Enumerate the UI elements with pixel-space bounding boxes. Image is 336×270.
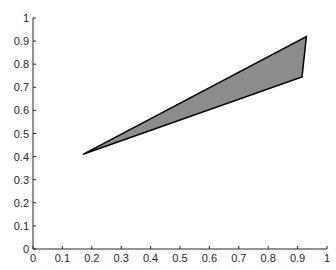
y-tick-label: 1	[23, 12, 29, 24]
x-tick-label: 1	[324, 252, 330, 264]
y-tick-label: 0	[23, 243, 29, 255]
y-axis: 00.10.20.30.40.50.60.70.80.91	[14, 12, 36, 255]
x-tick-label: 0.8	[261, 252, 276, 264]
y-tick-label: 0.2	[14, 197, 29, 209]
x-tick-label: 0.5	[172, 252, 187, 264]
chart: 00.10.20.30.40.50.60.70.80.91 00.10.20.3…	[0, 0, 336, 270]
y-tick-label: 0.9	[14, 35, 29, 47]
x-tick-label: 0.3	[114, 252, 129, 264]
x-tick-label: 0.1	[55, 252, 70, 264]
x-axis: 00.10.20.30.40.50.60.70.80.91	[30, 246, 330, 264]
x-tick-label: 0.4	[143, 252, 158, 264]
y-tick-label: 0.4	[14, 151, 29, 163]
x-tick-label: 0.6	[202, 252, 217, 264]
x-tick-label: 0	[30, 252, 36, 264]
y-tick-label: 0.8	[14, 58, 29, 70]
y-tick-label: 0.3	[14, 174, 29, 186]
x-tick-label: 0.2	[84, 252, 99, 264]
y-tick-label: 0.5	[14, 128, 29, 140]
y-tick-label: 0.6	[14, 104, 29, 116]
y-tick-label: 0.7	[14, 81, 29, 93]
series-filled-triangle	[83, 37, 306, 155]
plot-area	[83, 37, 306, 155]
y-tick-label: 0.1	[14, 220, 29, 232]
x-tick-label: 0.7	[231, 252, 246, 264]
x-tick-label: 0.9	[290, 252, 305, 264]
